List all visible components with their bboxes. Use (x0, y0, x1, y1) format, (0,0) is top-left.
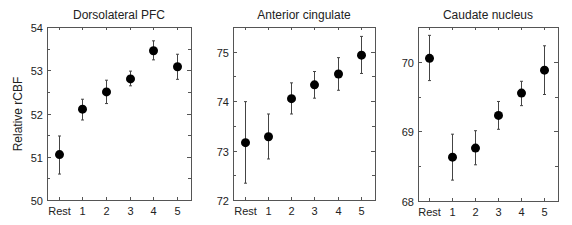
y-axis-label: Relative rCBF (11, 77, 25, 152)
data-point (264, 132, 273, 141)
x-tick-label: 2 (103, 205, 109, 217)
y-tick-label: 68 (402, 196, 414, 208)
data-point (310, 80, 319, 89)
plot-frame (48, 28, 192, 201)
y-tick-label: 50 (31, 195, 43, 207)
x-tick-label: 5 (174, 205, 180, 217)
data-point (334, 69, 343, 78)
data-point (78, 105, 87, 114)
chart-title: Anterior cingulate (257, 8, 351, 22)
data-point (517, 89, 526, 98)
data-point (173, 62, 182, 71)
x-tick-label: 4 (150, 205, 156, 217)
y-tick-label: 70 (402, 57, 414, 69)
data-point (102, 87, 111, 96)
x-tick-label: 4 (518, 206, 524, 218)
x-tick-label: Rest (234, 205, 257, 217)
data-point (241, 138, 250, 147)
x-tick-label: 1 (265, 205, 271, 217)
x-tick-label: 1 (79, 205, 85, 217)
chart-title: Dorsolateral PFC (73, 8, 165, 22)
data-point (425, 54, 434, 63)
y-tick-label: 54 (31, 22, 43, 34)
x-tick-label: 5 (541, 206, 547, 218)
data-point (448, 153, 457, 162)
x-tick-label: Rest (48, 205, 71, 217)
data-point (471, 144, 480, 153)
plot-frame (234, 28, 376, 201)
plot-frame (419, 28, 559, 202)
y-tick-label: 52 (31, 109, 43, 121)
data-point (287, 94, 296, 103)
y-tick-label: 69 (402, 126, 414, 138)
data-point (55, 150, 64, 159)
chart-panel-2: Anterior cingulate72737475Rest12345 (217, 8, 376, 217)
data-point (126, 74, 135, 83)
data-point (149, 46, 158, 55)
x-tick-label: 3 (495, 206, 501, 218)
data-point (357, 51, 366, 60)
y-tick-label: 74 (217, 96, 229, 108)
data-point (540, 66, 549, 75)
x-tick-label: Rest (418, 206, 441, 218)
x-tick-label: 3 (311, 205, 317, 217)
x-tick-label: 1 (449, 206, 455, 218)
chart-title: Caudate nucleus (443, 8, 533, 22)
x-tick-label: 4 (335, 205, 341, 217)
x-tick-label: 3 (127, 205, 133, 217)
y-tick-label: 53 (31, 65, 43, 77)
chart-panel-3: Caudate nucleus686970Rest12345 (402, 8, 559, 218)
x-tick-label: 2 (472, 206, 478, 218)
y-tick-label: 51 (31, 152, 43, 164)
chart-panel-1: Dorsolateral PFC5051525354Rest12345 (31, 8, 192, 217)
data-point (494, 111, 503, 120)
y-tick-label: 73 (217, 146, 229, 158)
chart-canvas: Relative rCBFDorsolateral PFC5051525354R… (0, 0, 572, 225)
figure: Relative rCBFDorsolateral PFC5051525354R… (0, 0, 572, 225)
x-tick-label: 2 (288, 205, 294, 217)
x-tick-label: 5 (358, 205, 364, 217)
y-tick-label: 75 (217, 47, 229, 59)
y-tick-label: 72 (217, 195, 229, 207)
